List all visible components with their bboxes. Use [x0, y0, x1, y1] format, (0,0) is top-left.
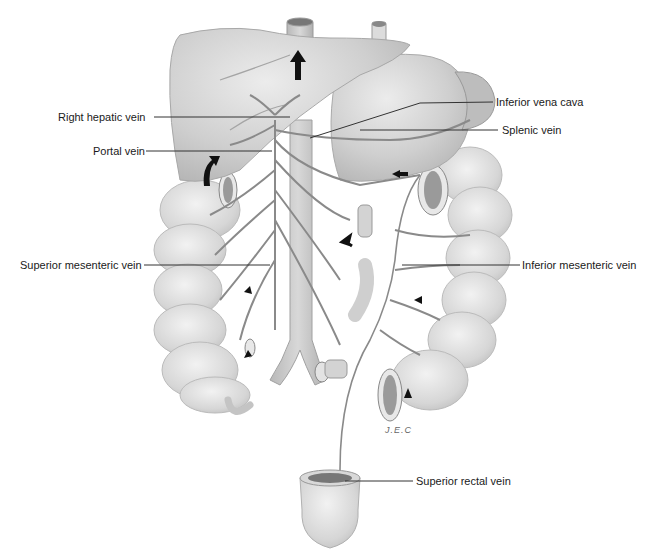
hepatic-portal-diagram [0, 0, 652, 560]
ascending-colon [154, 172, 255, 413]
label-superior-rectal-vein: Superior rectal vein [416, 475, 511, 487]
rectum [300, 470, 360, 548]
label-superior-mesenteric-vein: Superior mesenteric vein [20, 259, 142, 271]
small-intestine-segments [315, 205, 372, 382]
label-right-hepatic-vein: Right hepatic vein [58, 111, 145, 123]
label-portal-vein: Portal vein [93, 145, 145, 157]
label-splenic-vein: Splenic vein [502, 124, 561, 136]
label-inferior-mesenteric-vein: Inferior mesenteric vein [522, 259, 636, 271]
label-inferior-vena-cava: Inferior vena cava [496, 96, 583, 108]
arrow-icon [414, 296, 422, 304]
arrow-icon [244, 286, 252, 294]
descending-colon [378, 147, 512, 421]
artist-signature: J.E.C [385, 425, 412, 435]
arrow-icon [342, 236, 352, 246]
